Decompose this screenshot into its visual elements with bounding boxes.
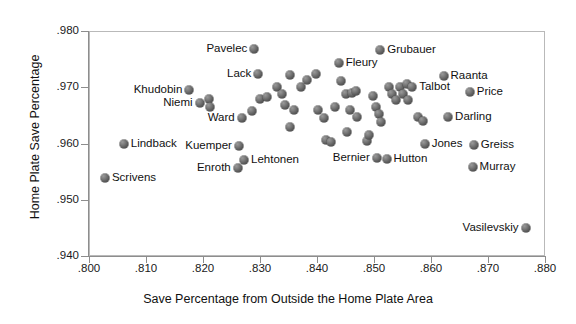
data-point — [290, 105, 299, 114]
data-point — [119, 139, 128, 148]
data-point — [326, 137, 335, 146]
data-point — [404, 95, 413, 104]
point-label: Hutton — [394, 154, 428, 166]
point-label: Lack — [227, 69, 251, 81]
data-point — [351, 87, 360, 96]
point-label: Jones — [432, 138, 463, 150]
data-point — [281, 101, 290, 110]
data-point — [521, 223, 530, 232]
point-label: Enroth — [197, 163, 231, 175]
y-tick-mark — [81, 87, 88, 88]
data-point — [408, 83, 417, 92]
data-point — [285, 122, 294, 131]
point-label: Talbot — [419, 82, 450, 94]
data-point — [342, 128, 351, 137]
x-tick-label: .830 — [237, 262, 283, 274]
data-point — [365, 131, 374, 140]
point-label: Niemi — [163, 97, 192, 109]
x-tick-label: .820 — [180, 262, 226, 274]
y-tick-mark — [81, 256, 88, 257]
data-point — [372, 153, 381, 162]
data-point — [250, 45, 259, 54]
data-point — [277, 90, 286, 99]
data-point — [248, 107, 257, 116]
data-point — [369, 92, 378, 101]
scatter-chart: .940.950.960.970.980.800.810.820.830.840… — [0, 0, 576, 324]
data-point — [320, 114, 329, 123]
data-point — [286, 70, 295, 79]
point-label: Khudobin — [134, 84, 183, 96]
point-label: Ward — [208, 112, 235, 124]
data-point — [469, 141, 478, 150]
y-tick-mark — [81, 144, 88, 145]
x-tick-label: .880 — [522, 262, 568, 274]
point-label: Lehtonen — [251, 155, 299, 167]
data-point — [314, 105, 323, 114]
point-label: Greiss — [481, 139, 514, 151]
x-axis-title: Save Percentage from Outside the Home Pl… — [0, 292, 576, 306]
data-point — [330, 102, 339, 111]
point-label: Darling — [455, 111, 491, 123]
data-point — [377, 118, 386, 127]
data-point — [233, 164, 242, 173]
point-label: Pavelec — [206, 43, 247, 55]
data-point — [382, 155, 391, 164]
point-label: Scrivens — [112, 173, 156, 185]
point-label: Price — [477, 86, 503, 98]
data-point — [468, 163, 477, 172]
y-axis-title: Home Plate Save Percentage — [28, 7, 42, 267]
data-point — [195, 99, 204, 108]
data-point — [240, 156, 249, 165]
data-point — [206, 102, 215, 111]
data-point — [237, 114, 246, 123]
data-point — [234, 142, 243, 151]
x-tick-label: .860 — [408, 262, 454, 274]
data-point — [336, 76, 345, 85]
point-label: Bernier — [333, 152, 370, 164]
x-tick-label: .840 — [294, 262, 340, 274]
x-tick-label: .870 — [465, 262, 511, 274]
data-point — [352, 112, 361, 121]
y-axis-line — [88, 31, 89, 257]
point-label: Kuemper — [185, 141, 232, 153]
x-tick-label: .810 — [123, 262, 169, 274]
data-point — [302, 75, 311, 84]
point-label: Raanta — [451, 70, 488, 82]
data-point — [334, 59, 343, 68]
point-label: Vasilevskiy — [463, 222, 519, 234]
data-point — [465, 87, 474, 96]
data-point — [185, 86, 194, 95]
data-point — [254, 70, 263, 79]
point-label: Murray — [480, 161, 516, 173]
y-tick-mark — [81, 31, 88, 32]
point-label: Grubauer — [387, 44, 436, 56]
data-point — [100, 174, 109, 183]
data-point — [444, 112, 453, 121]
data-point — [419, 117, 428, 126]
data-point — [420, 139, 429, 148]
data-point — [311, 70, 320, 79]
data-point — [376, 45, 385, 54]
y-tick-mark — [81, 200, 88, 201]
x-tick-label: .800 — [66, 262, 112, 274]
point-label: Fleury — [346, 57, 378, 69]
x-tick-label: .850 — [351, 262, 397, 274]
data-point — [263, 92, 272, 101]
point-label: Lindback — [131, 138, 177, 150]
data-point — [439, 72, 448, 81]
